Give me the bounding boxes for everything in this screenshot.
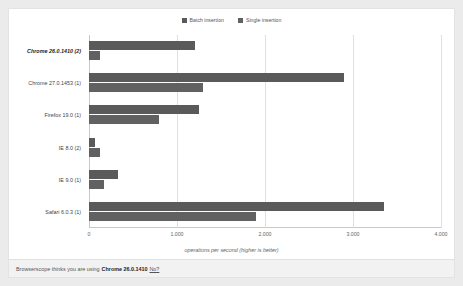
- bar-single[interactable]: [89, 115, 159, 124]
- legend-swatch-single-insertion: [238, 18, 243, 23]
- x-tick-label: 3.000: [347, 231, 360, 237]
- bar-batch[interactable]: [89, 73, 344, 82]
- bar-batch[interactable]: [89, 170, 118, 179]
- bar-group: [89, 138, 441, 158]
- legend-item-batch-insertion[interactable]: Batch insertion: [182, 17, 224, 23]
- chart-legend: Batch insertion Single insertion: [9, 17, 454, 23]
- bar-group: [89, 202, 441, 222]
- legend-item-single-insertion[interactable]: Single insertion: [238, 17, 281, 23]
- footer-prefix-text: Browserscope thinks you are using: [16, 266, 100, 272]
- bar-group: [89, 41, 441, 61]
- chart-plot-area: [89, 35, 441, 228]
- category-label: IE 8.0 (2): [59, 145, 81, 151]
- category-label: Chrome 27.0.1453 (1): [28, 80, 81, 86]
- gridline-1000: [177, 35, 178, 228]
- gridline-2000: [265, 35, 266, 228]
- footer-browser-name: Chrome 26.0.1410: [102, 266, 148, 272]
- category-axis-labels: Chrome 26.0.1410 (2)Chrome 27.0.1453 (1)…: [9, 35, 85, 228]
- bar-batch[interactable]: [89, 41, 195, 50]
- gridline-0: [89, 35, 90, 228]
- bar-batch[interactable]: [89, 138, 95, 147]
- category-label: IE 9.0 (1): [59, 177, 81, 183]
- bar-single[interactable]: [89, 180, 104, 189]
- x-tick-label: 1.000: [171, 231, 184, 237]
- x-axis-ticks: 01.0002.0003.0004.000: [89, 231, 441, 241]
- bar-group: [89, 170, 441, 190]
- bar-batch[interactable]: [89, 105, 199, 114]
- x-tick-label: 4.000: [435, 231, 448, 237]
- bar-group: [89, 73, 441, 93]
- legend-label-batch-insertion: Batch insertion: [190, 17, 224, 23]
- bar-single[interactable]: [89, 212, 256, 221]
- bar-group: [89, 105, 441, 125]
- bar-single[interactable]: [89, 83, 203, 92]
- category-label: Firefox 19.0 (1): [44, 112, 81, 118]
- category-label: Chrome 26.0.1410 (2): [27, 48, 81, 54]
- x-tick-label: 0: [88, 231, 91, 237]
- chart-card: Batch insertion Single insertion Chrome …: [8, 8, 455, 278]
- footer-bar: Browserscope thinks you are using Chrome…: [9, 259, 454, 277]
- x-tick-label: 2.000: [259, 231, 272, 237]
- category-label: Safari 6.0.3 (1): [45, 209, 81, 215]
- gridline-4000: [441, 35, 442, 228]
- legend-swatch-batch-insertion: [182, 18, 187, 23]
- gridline-3000: [353, 35, 354, 228]
- x-axis-title: operations per second (higher is better): [9, 247, 454, 253]
- bar-batch[interactable]: [89, 202, 384, 211]
- bar-single[interactable]: [89, 148, 100, 157]
- legend-label-single-insertion: Single insertion: [246, 17, 281, 23]
- footer-not-my-browser-link[interactable]: No?: [149, 266, 159, 272]
- bar-single[interactable]: [89, 51, 100, 60]
